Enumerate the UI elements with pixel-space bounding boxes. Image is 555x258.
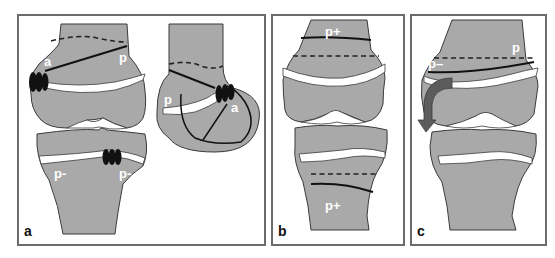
label-lateral-a: a [231,100,239,115]
panel-letter-b: b [278,223,287,239]
tibia-bone [37,128,147,234]
panel-b-illustration: p+ p+ [273,16,403,244]
label-tibia-p-left: p- [54,166,66,181]
label-tibia-p-right: p- [119,166,131,181]
label-femur-a: a [44,54,52,69]
panel-c-illustration: p p– [412,16,545,244]
panel-a: a p p- p- p a a [17,14,266,246]
label-femur-p: p [119,50,127,65]
staple-icon-femur [29,72,49,92]
staple-icon-tibia [103,149,122,165]
panel-b: p+ p+ b [271,14,405,246]
label-lateral-p: p [164,92,172,107]
tibia-bone [430,129,536,230]
panel-letter-a: a [24,223,32,239]
panel-c: p p– c [410,14,547,246]
label-top-p-plus: p+ [325,24,341,39]
panel-a-illustration: a p p- p- p a [19,16,264,244]
label-left-p-minus: p– [428,56,443,71]
tibia-bone [295,125,388,230]
panel-letter-c: c [417,223,425,239]
label-bottom-p-plus: p+ [325,198,341,213]
label-right-p: p [512,40,520,55]
